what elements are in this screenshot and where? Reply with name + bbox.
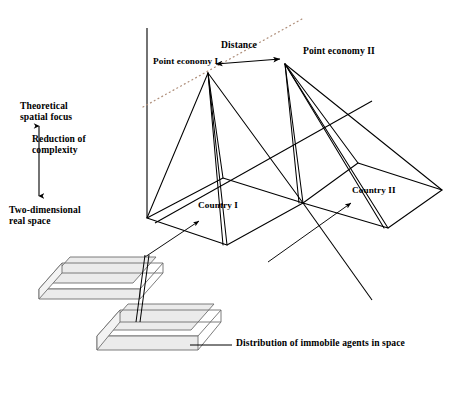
label-country-ii: Country II (352, 185, 396, 196)
label-country-i: Country I (198, 200, 238, 211)
label-theoretical-spatial-focus: Theoretical spatial focus (20, 100, 72, 123)
cone-point-economy-i (147, 73, 303, 245)
label-point-economy-ii: Point economy II (303, 45, 375, 56)
slab-upper-top (47, 257, 156, 283)
label-distribution-of-immobile-agents: Distribution of immobile agents in space (236, 337, 405, 348)
base-plane (147, 163, 442, 245)
base-plane-country-i (147, 178, 303, 245)
slab-lower-front (97, 336, 198, 350)
label-point-economy-i: Point economy I (153, 56, 218, 67)
label-two-dimensional-real-space: Two-dimensional real space (9, 204, 81, 227)
section-diagonal-line (155, 101, 372, 300)
label-distance: Distance (221, 39, 257, 50)
cone-point-economy-ii (285, 64, 442, 228)
slab-lower (97, 304, 221, 350)
slab-upper-front (39, 289, 140, 299)
figure-canvas: Theoretical spatial focus Reduction of c… (0, 0, 471, 399)
label-reduction-of-complexity: Reduction of complexity (32, 133, 86, 156)
slab-lower-top (105, 304, 214, 330)
